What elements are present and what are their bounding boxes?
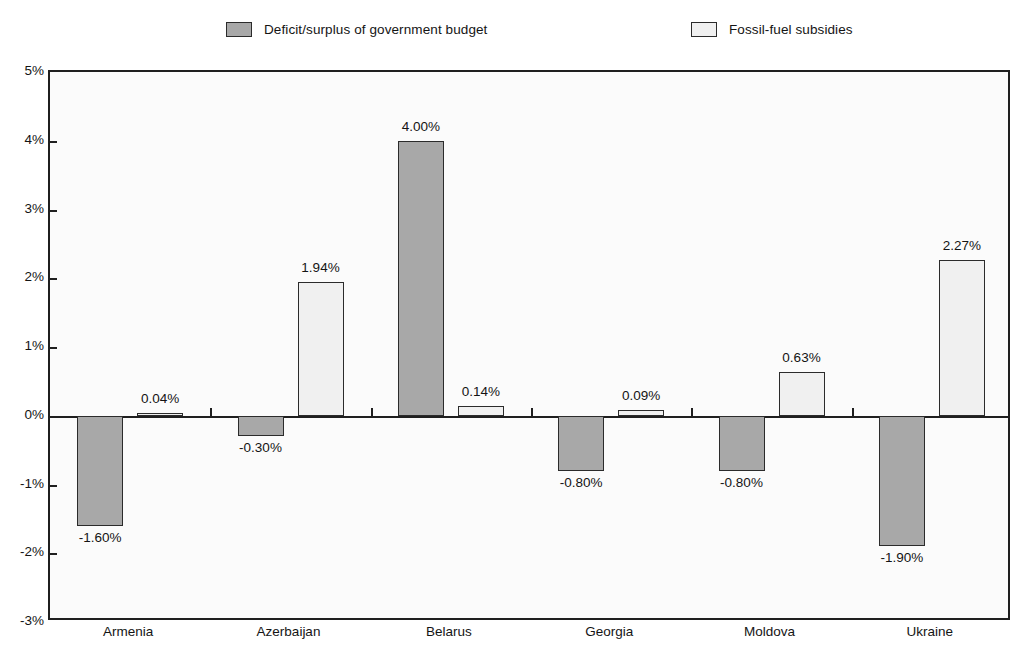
bar-value-label: 0.04% bbox=[141, 391, 179, 406]
bar-value-label: -0.80% bbox=[560, 475, 603, 490]
y-axis-tick-mark bbox=[50, 485, 57, 487]
bar-moldova-subsidies bbox=[779, 372, 825, 415]
bar-value-label: -0.80% bbox=[720, 475, 763, 490]
bar-belarus-subsidies bbox=[458, 406, 504, 416]
bar-ukraine-subsidies bbox=[939, 260, 985, 416]
legend-item-deficit: Deficit/surplus of government budget bbox=[226, 18, 487, 40]
legend-swatch-deficit-icon bbox=[226, 22, 252, 37]
bar-belarus-deficit bbox=[398, 141, 444, 416]
y-axis: 5%4%3%2%1%0%-1%-2%-3% bbox=[0, 70, 44, 620]
bar-azerbaijan-subsidies bbox=[298, 282, 344, 415]
x-axis-tick-label: Armenia bbox=[103, 624, 153, 639]
x-axis-tick-label: Ukraine bbox=[907, 624, 954, 639]
y-axis-tick-label: 0% bbox=[2, 406, 44, 421]
bar-azerbaijan-deficit bbox=[238, 416, 284, 437]
x-axis-tick-mark bbox=[852, 408, 854, 416]
bar-value-label: 0.14% bbox=[462, 384, 500, 399]
y-axis-tick-label: 2% bbox=[2, 269, 44, 284]
y-axis-tick-label: -2% bbox=[2, 544, 44, 559]
bar-value-label: 2.27% bbox=[943, 238, 981, 253]
bar-value-label: 4.00% bbox=[402, 119, 440, 134]
plot-inner: -1.60%0.04%-0.30%1.94%4.00%0.14%-0.80%0.… bbox=[50, 72, 1008, 618]
x-axis: ArmeniaAzerbaijanBelarusGeorgiaMoldovaUk… bbox=[48, 624, 1010, 651]
legend-swatch-subsidies-icon bbox=[691, 22, 717, 37]
y-axis-tick-label: -1% bbox=[2, 475, 44, 490]
plot-area: -1.60%0.04%-0.30%1.94%4.00%0.14%-0.80%0.… bbox=[48, 70, 1010, 620]
chart-legend: Deficit/surplus of government budget Fos… bbox=[0, 0, 1012, 60]
legend-item-subsidies: Fossil-fuel subsidies bbox=[691, 18, 853, 40]
legend-label-deficit: Deficit/surplus of government budget bbox=[264, 22, 487, 37]
bar-value-label: -1.60% bbox=[79, 530, 122, 545]
y-axis-tick-label: 1% bbox=[2, 338, 44, 353]
y-axis-tick-mark bbox=[50, 141, 57, 143]
y-axis-tick-mark bbox=[50, 553, 57, 555]
bar-armenia-subsidies bbox=[137, 413, 183, 416]
y-axis-tick-label: 3% bbox=[2, 200, 44, 215]
y-axis-tick-mark bbox=[50, 347, 57, 349]
x-axis-tick-mark bbox=[371, 408, 373, 416]
x-axis-tick-mark bbox=[210, 408, 212, 416]
y-axis-tick-label: 4% bbox=[2, 131, 44, 146]
bar-value-label: 1.94% bbox=[301, 260, 339, 275]
bar-value-label: -1.90% bbox=[880, 550, 923, 565]
x-axis-tick-mark bbox=[531, 408, 533, 416]
x-axis-tick-label: Moldova bbox=[744, 624, 795, 639]
bar-value-label: 0.63% bbox=[782, 350, 820, 365]
bar-georgia-deficit bbox=[558, 416, 604, 471]
bar-armenia-deficit bbox=[77, 416, 123, 526]
zero-baseline bbox=[50, 416, 1008, 418]
bar-ukraine-deficit bbox=[879, 416, 925, 547]
bar-moldova-deficit bbox=[719, 416, 765, 471]
y-axis-tick-label: 5% bbox=[2, 63, 44, 78]
x-axis-tick-label: Georgia bbox=[585, 624, 633, 639]
bar-georgia-subsidies bbox=[618, 410, 664, 416]
x-axis-tick-label: Belarus bbox=[426, 624, 472, 639]
y-axis-tick-mark bbox=[50, 278, 57, 280]
y-axis-tick-mark bbox=[50, 210, 57, 212]
x-axis-tick-label: Azerbaijan bbox=[257, 624, 321, 639]
y-axis-tick-label: -3% bbox=[2, 613, 44, 628]
bar-value-label: 0.09% bbox=[622, 388, 660, 403]
legend-label-subsidies: Fossil-fuel subsidies bbox=[729, 22, 853, 37]
bar-value-label: -0.30% bbox=[239, 440, 282, 455]
x-axis-tick-mark bbox=[691, 408, 693, 416]
